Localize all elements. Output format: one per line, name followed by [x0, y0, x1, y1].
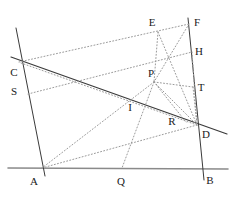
point-label-f: F [194, 17, 200, 28]
point-label-e: E [149, 17, 156, 28]
segment-dotted-P-A [42, 82, 154, 168]
segment-dotted-P-Q [122, 82, 154, 168]
point-label-s: S [11, 86, 17, 97]
segment-left-line-CA [16, 28, 45, 176]
point-label-b: B [206, 175, 213, 186]
segment-dotted-A-D [42, 125, 197, 168]
segment-dotted-E-P [154, 32, 158, 82]
point-label-i: I [128, 102, 132, 113]
point-label-q: Q [117, 176, 125, 187]
point-label-d: D [202, 129, 210, 140]
point-label-c: C [10, 67, 17, 78]
point-label-r: R [168, 116, 175, 127]
point-label-h: H [195, 46, 203, 57]
segment-dotted-H-D [192, 52, 197, 125]
point-label-t: T [198, 82, 205, 93]
segment-right-line-FB [188, 18, 204, 180]
segment-dotted-S-P-H [28, 52, 192, 94]
geometry-figure: ABCDEFHIPQRST [0, 0, 230, 198]
point-label-p: P [148, 68, 154, 79]
segment-baseline-AB [8, 168, 228, 169]
segment-dotted-C-E-F [19, 24, 189, 62]
segment-dotted-F-P [154, 24, 189, 82]
diagram-canvas [0, 0, 230, 198]
segment-dotted-P-T [154, 82, 193, 87]
point-label-a: A [30, 176, 38, 187]
